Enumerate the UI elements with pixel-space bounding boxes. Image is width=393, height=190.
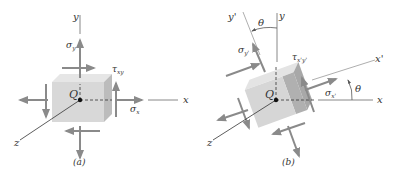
caption-b: (b) (282, 157, 295, 167)
sigma-y-prime-label: σy' (238, 45, 250, 57)
cube-a (52, 74, 112, 122)
x-axis-label: x (183, 94, 189, 105)
z-axis-label: z (13, 137, 20, 148)
caption-a: (a) (73, 157, 86, 167)
origin-label: Q (69, 88, 78, 101)
tau-xy-prime-label: τx'y' (292, 52, 307, 64)
origin-point (78, 98, 82, 102)
sigma-x-prime-label: σx' (325, 88, 337, 99)
x-prime-axis (312, 60, 375, 80)
sigma-y-prime-arrow-up (253, 44, 265, 72)
cube-top-face (52, 74, 112, 82)
cube-side-face (104, 74, 112, 122)
x-prime-axis-label: x' (375, 53, 383, 64)
theta-arc-top (252, 27, 277, 31)
figure-b: y x y' x' z Q θ θ σy' σx' τx'y' (b) (206, 10, 383, 167)
y-axis-label: y (72, 11, 79, 22)
theta-label-right: θ (355, 83, 361, 94)
stress-element-diagram: y x z Q σy σx τxy (a) (0, 0, 393, 190)
sigma-x-prime-arrow-right (305, 79, 336, 90)
y-axis-label-b: y (278, 10, 285, 21)
figure-a: y x z Q σy σx τxy (a) (13, 11, 189, 167)
sigma-x-label: σx (130, 104, 140, 115)
tau-bottom-arrow-b (273, 123, 305, 134)
theta-arc-right (348, 80, 352, 100)
tau-top-arrow-b (226, 64, 259, 76)
sigma-y-prime-arrow-down (288, 126, 299, 156)
theta-label-top: θ (258, 17, 264, 28)
z-axis-label-b: z (206, 137, 213, 148)
x-axis-label-b: x (377, 94, 383, 105)
cube-b (242, 62, 315, 128)
origin-label-b: Q (265, 88, 274, 101)
origin-point-b (274, 98, 278, 102)
tau-xy-label: τxy (112, 64, 124, 76)
y-prime-axis-label: y' (227, 11, 236, 22)
sigma-y-label: σy (66, 40, 76, 52)
